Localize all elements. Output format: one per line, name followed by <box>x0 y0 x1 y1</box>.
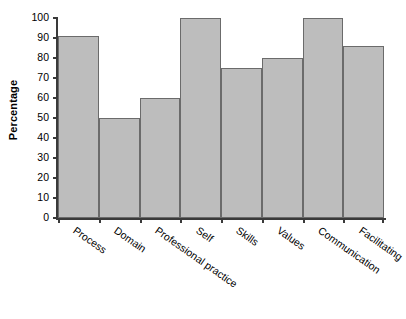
x-axis-tick-mark <box>140 218 142 223</box>
x-axis-tick-label: Process <box>71 224 109 256</box>
x-axis-tick-mark <box>58 218 60 223</box>
y-axis-title: Percentage <box>2 0 24 219</box>
x-axis-tick-mark <box>262 218 264 223</box>
x-axis-tick-mark <box>343 218 345 223</box>
y-axis-tick-label: 0 <box>43 211 49 223</box>
y-axis-tick-label: 20 <box>37 171 49 183</box>
x-axis-tick-mark <box>303 218 305 223</box>
bar <box>140 98 181 218</box>
x-axis-tick-mark <box>382 218 384 223</box>
y-axis-tick-mark <box>53 17 58 19</box>
bar <box>99 118 140 218</box>
y-axis-tick-label: 30 <box>37 151 49 163</box>
y-axis-tick-label: 80 <box>37 51 49 63</box>
plot-area: 0102030405060708090100 <box>58 18 384 218</box>
x-axis-tick-label: Self <box>194 224 216 244</box>
y-axis-tick-label: 90 <box>37 31 49 43</box>
y-axis-tick-label: 70 <box>37 71 49 83</box>
y-axis-tick-label: 60 <box>37 91 49 103</box>
y-axis-title-text: Percentage <box>7 79 19 139</box>
y-axis-tick-label: 40 <box>37 131 49 143</box>
x-axis-tick-label: Skills <box>234 224 261 248</box>
y-axis-tick-label: 50 <box>37 111 49 123</box>
x-axis-tick-mark <box>221 218 223 223</box>
x-axis-tick-labels: ProcessDomainProfessional practiceSelfSk… <box>58 224 384 316</box>
bar-chart-figure: Percentage 0102030405060708090100 Proces… <box>0 0 406 319</box>
x-axis-tick-mark <box>99 218 101 223</box>
y-axis-tick-label: 100 <box>31 11 49 23</box>
x-axis-tick-mark <box>180 218 182 223</box>
bar <box>262 58 303 218</box>
x-axis-tick-label: Values <box>275 224 308 252</box>
x-axis-tick-label: Domain <box>112 224 149 255</box>
bar <box>58 36 99 218</box>
bar <box>221 68 262 218</box>
y-axis-tick-label: 10 <box>37 191 49 203</box>
bar <box>180 18 221 218</box>
bar <box>303 18 344 218</box>
bar <box>343 46 384 218</box>
